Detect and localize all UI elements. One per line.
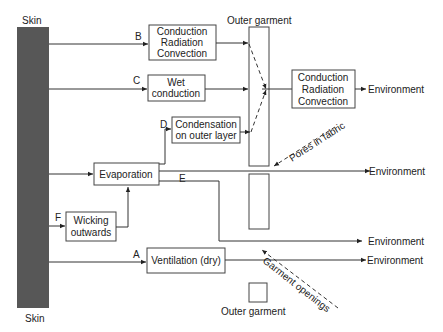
box-c-line2: conduction: [152, 88, 200, 99]
box-a-label: Ventilation (dry): [151, 255, 220, 266]
path-e-letter: E: [179, 173, 186, 184]
box-f-line2: outwards: [71, 227, 112, 238]
outer-garment-lower: [249, 283, 267, 302]
box-d-line1: Condensation: [175, 119, 237, 130]
env-2: Environment: [369, 166, 425, 177]
box-f-line1: Wicking: [73, 215, 108, 226]
box-b-line2: Radiation: [161, 37, 203, 48]
env-1: Environment: [368, 84, 424, 95]
path-d-letter: D: [160, 119, 167, 130]
box-c-line1: Wet: [167, 77, 185, 88]
skin-label-top: Skin: [22, 15, 41, 26]
box-out-line1: Conduction: [298, 72, 349, 83]
outer-garment-upper: [249, 27, 269, 166]
box-b-line1: Conduction: [157, 26, 208, 37]
box-b-line3: Convection: [157, 48, 207, 59]
path-f-letter: F: [55, 212, 61, 223]
box-out-line2: Radiation: [302, 84, 344, 95]
path-c-letter: C: [133, 75, 140, 86]
outer-garment-label-top: Outer garment: [227, 15, 292, 26]
box-evaporation-label: Evaporation: [99, 169, 152, 180]
outer-garment-label-bottom: Outer garment: [221, 306, 286, 317]
outer-garment-middle: [249, 174, 269, 229]
pores-label: Pores in fabric: [287, 120, 347, 164]
wicking-to-evap-arrow: [116, 187, 128, 227]
evap-to-d-arrow: [159, 129, 171, 164]
box-out-line3: Convection: [298, 96, 348, 107]
path-a-letter: A: [133, 249, 140, 260]
env-3: Environment: [368, 236, 424, 247]
heat-transfer-diagram: Skin Skin Outer garment Outer garment B …: [0, 0, 443, 332]
skin-bar: [17, 27, 49, 308]
env-4: Environment: [367, 255, 423, 266]
skin-label-bottom: Skin: [25, 313, 44, 324]
path-b-letter: B: [135, 31, 142, 42]
box-d-line2: on outer layer: [175, 130, 237, 141]
